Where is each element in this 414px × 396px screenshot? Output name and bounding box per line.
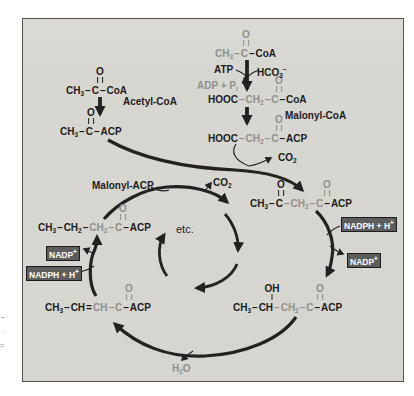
bond-atom: O [87,108,95,117]
bond-atom: O [119,204,127,213]
double-bond-mark [88,118,94,124]
formula-text: – [300,302,306,313]
formula-text: – [284,198,290,209]
subscript: 2 [260,99,264,106]
subscript: 3 [264,203,268,210]
formula-text: – [279,133,285,144]
formula-text: CoA [255,48,276,59]
page-margin-fragment: = [0,342,4,349]
crotonyl-acp-formula: CH3–CH=CH–C–ACP [45,302,151,316]
subscript: 2 [305,203,309,210]
co2-cycle-label: CO2 [213,177,232,191]
formula-text: ACP [321,302,342,313]
formula-text: C [241,48,248,59]
formula-text: CH [64,222,78,233]
atp-label: ATP [214,64,233,75]
subscript: 3 [74,131,78,138]
nadph-box-right: NADPH + H+ [341,217,397,232]
page-margin-fragment: · [2,328,4,335]
formula-text: NADPH + H [29,270,75,280]
subscript: 3 [229,53,233,60]
formula-text: – [239,133,245,144]
subscript: 2 [260,138,264,145]
formula-text: C [271,133,278,144]
formula-text: HOOC [208,94,238,105]
double-bond-mark [120,214,126,220]
formula-text: – [57,222,63,233]
formula-text: C [306,302,313,313]
formula-text: – [310,198,316,209]
bond-atom: O [125,284,133,293]
formula-text: NADPH + H [344,221,390,231]
formula-text: – [249,48,255,59]
formula-text: C [86,126,93,137]
formula-text: = [86,302,92,313]
formula-text: – [269,198,275,209]
crotonyl-acp-formula-carbonyl-bond: O [125,284,133,300]
formula-text: ACP [331,198,352,209]
subscript: 3 [59,307,63,314]
formula-text: HCO [257,67,279,78]
bond-atom: O [96,67,104,76]
acetoacetyl-acp-formula: CH3–C–CH2–C–ACP [250,198,352,212]
superscript: + [75,268,79,275]
formula-text: – [108,222,114,233]
subscript: 2 [293,157,297,164]
formula-text: C [115,222,122,233]
superscript: − [283,66,287,73]
formula-text: ACP [130,222,151,233]
subscript: 3 [80,90,84,97]
formula-text: CoA [106,85,127,96]
formula-text: ADP + P [197,80,236,91]
formula-text: – [64,302,70,313]
hydroxybutyryl-acp-formula-carbonyl-bond: O [316,284,324,300]
formula-text: CH [38,222,52,233]
formula-text: O [183,363,191,374]
nadp-box-left: NADP+ [46,246,80,261]
formula-text: NADP [350,257,374,267]
formula-text: CH [246,133,260,144]
formula-text: CH [259,302,273,313]
formula-text: – [83,222,89,233]
formula-text: C [115,302,122,313]
formula-text: – [265,133,271,144]
formula-text: – [94,126,100,137]
formula-text: CH [89,222,103,233]
adp-pi-label: ADP + Pi [197,80,238,94]
formula-text: CH [66,85,80,96]
malonyl-acp-label: Malonyl-ACP [92,180,154,191]
formula-text: CH [93,302,107,313]
formula-text: CH [281,302,295,313]
formula-text: CO [278,152,293,163]
formula-text: – [252,302,258,313]
bond-atom: O [277,180,285,189]
formula-text: CH [246,94,260,105]
superscript: + [374,255,378,262]
formula-text: C [271,94,278,105]
butyryl-acp-formula: CH3–CH2–CH2–C–ACP [38,222,151,236]
formula-text: CH [215,48,229,59]
acetyl-coa-formula: CH3–C–CoA [66,85,127,99]
formula-text: Malonyl-ACP [92,180,154,191]
single-bond-mark [272,294,273,300]
formula-text: – [274,302,280,313]
formula-text: CH [45,302,59,313]
formula-text: CoA [286,94,307,105]
formula-text: ACP [100,126,121,137]
formula-text: – [265,94,271,105]
acetyl-acp-formula-carbonyl-bond: O [87,108,95,124]
formula-text: Malonyl-CoA [285,110,346,121]
acetyl-coa-right-formula: CH3–C–CoA [215,48,276,62]
acetoacetyl-acp-formula-carbonyl-bond: O [277,180,285,196]
hydroxybutyryl-acp-formula-carbonyl-bond: OH [265,284,280,300]
page-margin-fragment: – [1,313,5,320]
acetyl-coa-label: Acetyl-CoA [123,96,177,107]
acetoacetyl-acp-formula-carbonyl-bond: O [323,180,331,196]
formula-text: CH [250,198,264,209]
double-bond-mark [243,40,249,46]
formula-text: ACP [130,302,151,313]
superscript: + [390,219,394,226]
formula-text: – [239,94,245,105]
double-bond-mark [276,86,282,92]
hydroxybutyryl-acp-formula: CH3–CH–CH2–C–ACP [233,302,342,316]
